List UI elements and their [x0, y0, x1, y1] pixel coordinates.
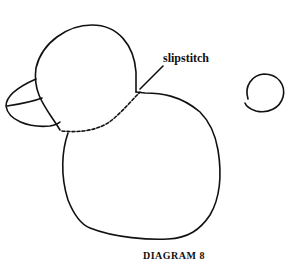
tail-outline: [245, 74, 284, 112]
slipstitch-seam: [62, 92, 140, 132]
beak-outline: [6, 79, 60, 126]
body-outline: [63, 92, 220, 239]
slipstitch-leader-line: [140, 66, 163, 89]
diagram-caption: DIAGRAM 8: [143, 250, 205, 259]
slipstitch-label: slipstitch: [163, 51, 209, 66]
duck-diagram: slipstitch DIAGRAM 8: [0, 0, 295, 259]
beak-split-line: [7, 98, 42, 106]
head-outline: [35, 25, 136, 130]
duck-drawing: [0, 0, 295, 259]
